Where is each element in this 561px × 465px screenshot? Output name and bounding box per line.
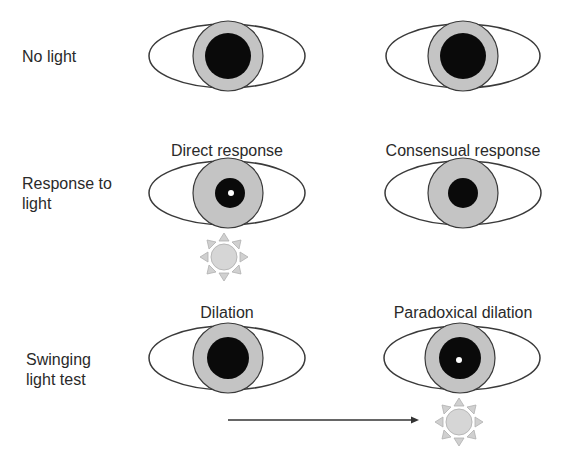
sun-light-source-icon bbox=[435, 398, 483, 446]
light-reflex-dot bbox=[456, 357, 462, 363]
eye-direct-response bbox=[149, 158, 305, 228]
swing-arrow-icon bbox=[228, 417, 419, 424]
pupil-diagram bbox=[0, 0, 561, 465]
sun-light-source-icon bbox=[200, 233, 248, 281]
eye-no-light-left bbox=[149, 21, 305, 91]
eye-paradoxical-dilation bbox=[384, 323, 540, 393]
eye-consensual-response bbox=[385, 158, 541, 228]
light-reflex-dot bbox=[228, 190, 234, 196]
eye-no-light-right bbox=[386, 21, 540, 91]
eye-dilation bbox=[149, 323, 305, 393]
